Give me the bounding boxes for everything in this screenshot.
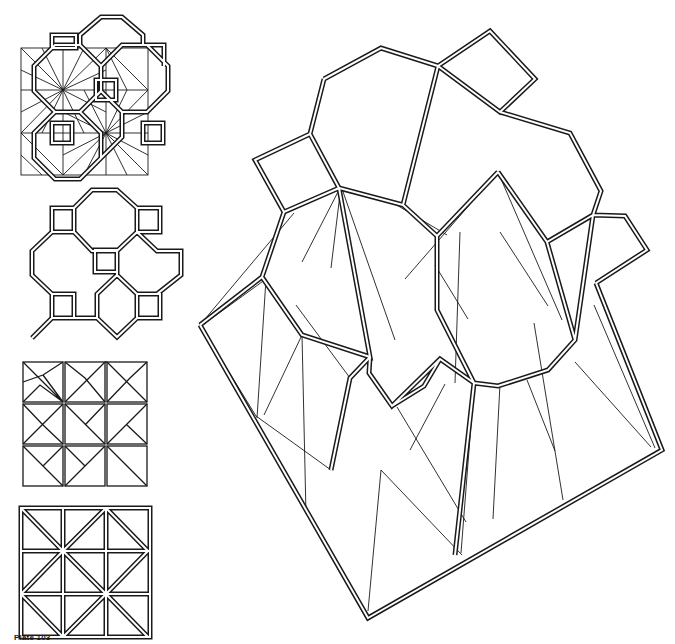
figure-b-octagon-square-outline xyxy=(32,190,181,338)
figure-d-diagonal-grid xyxy=(21,508,150,637)
plate-caption: Plate 103 xyxy=(14,633,51,642)
figure-main-rotated-tessellation xyxy=(200,31,662,618)
figure-a-octagon-square-fold-pattern xyxy=(21,17,168,179)
diagram-canvas xyxy=(0,0,675,644)
figure-c-star-crease-grid xyxy=(23,362,147,486)
